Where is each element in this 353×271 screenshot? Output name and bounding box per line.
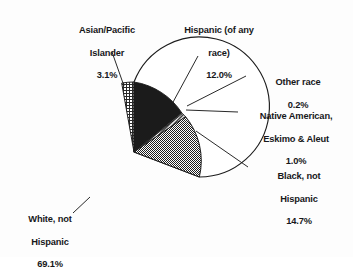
pie-label-native-line1: Native American, — [240, 111, 352, 122]
pie-label-asian-line2: Islander — [55, 48, 159, 59]
pie-label-white-not-hispanic: White, not Hispanic 69.1% — [2, 203, 98, 271]
pie-label-other-line1: Other race — [248, 77, 348, 88]
pie-label-asian-line1: Asian/Pacific — [55, 25, 159, 36]
pie-label-black-line2: Hispanic — [250, 194, 348, 205]
pie-label-native-line2: Eskimo & Aleut — [240, 134, 352, 145]
pie-label-black-line1: Black, not — [250, 171, 348, 182]
pie-label-black-value: 14.7% — [250, 216, 348, 227]
pie-label-black-not-hispanic: Black, not Hispanic 14.7% — [250, 160, 348, 238]
pie-label-white-line2: Hispanic — [2, 237, 98, 248]
pie-label-asian-pacific-islander: Asian/Pacific Islander 3.1% — [55, 14, 159, 92]
pie-label-white-line1: White, not — [2, 214, 98, 225]
pie-label-hispanic-line1: Hispanic (of any — [166, 25, 272, 36]
pie-label-white-value: 69.1% — [2, 259, 98, 270]
pie-label-asian-value: 3.1% — [55, 70, 159, 81]
pie-label-hispanic-line2: race) — [166, 48, 272, 59]
pie-slice-asian-pacific-islander — [122, 82, 134, 152]
